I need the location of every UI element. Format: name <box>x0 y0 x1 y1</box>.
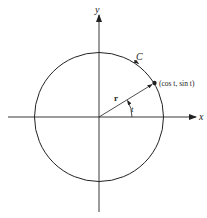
position-vector <box>99 85 152 118</box>
vector-label: r <box>114 93 118 103</box>
curve-label: C <box>136 51 143 62</box>
y-axis-label: y <box>94 4 100 15</box>
unit-circle-diagram: y x C r t (cos t, sin t) <box>0 0 207 218</box>
angle-label: t <box>131 104 134 114</box>
point-label: (cos t, sin t) <box>159 79 195 88</box>
point-on-circle <box>152 81 156 85</box>
x-axis-label: x <box>198 111 204 122</box>
